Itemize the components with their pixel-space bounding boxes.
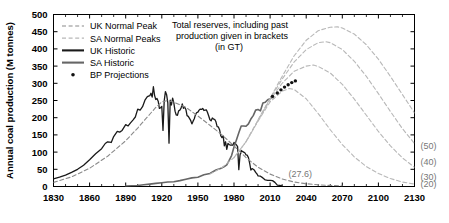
- annotation-line-1: Total reserves, including past: [172, 20, 289, 30]
- x-tick-label: 1920: [151, 192, 172, 203]
- legend-label: BP Projections: [90, 70, 149, 80]
- x-tick-label: 1830: [43, 192, 64, 203]
- y-tick-label: 150: [32, 129, 48, 140]
- x-tick-label: 2040: [296, 192, 317, 203]
- chart-canvas: 1830186018901920195019802010204020702100…: [0, 0, 449, 223]
- legend-label: UK Normal Peak: [90, 21, 158, 31]
- inline-reserve-label: (27.6): [288, 169, 312, 179]
- y-tick-label: 450: [32, 26, 48, 37]
- coal-production-chart: 1830186018901920195019802010204020702100…: [0, 0, 449, 223]
- bp-projection-dot: [271, 95, 274, 98]
- bp-projection-dot: [294, 79, 297, 82]
- series-line: [126, 97, 274, 186]
- y-tick-label: 100: [32, 147, 48, 158]
- x-tick-label: 2100: [368, 192, 389, 203]
- y-tick-label: 0: [42, 181, 47, 192]
- y-tick-label: 350: [32, 61, 48, 72]
- x-tick-label: 2130: [404, 192, 425, 203]
- right-axis-reserve-label: (40): [421, 157, 437, 167]
- legend-label: UK Historic: [90, 46, 136, 56]
- y-tick-label: 50: [37, 164, 48, 175]
- bp-projection-dot: [286, 83, 289, 86]
- y-tick-label: 400: [32, 43, 48, 54]
- y-tick-label: 300: [32, 78, 48, 89]
- y-tick-label: 200: [32, 112, 48, 123]
- x-tick-label: 1890: [115, 192, 136, 203]
- right-axis-reserve-label: (20): [421, 179, 437, 189]
- y-tick-label: 250: [32, 95, 48, 106]
- legend-marker-bp-projections: [71, 73, 75, 77]
- series-line: [54, 87, 283, 186]
- x-tick-label: 2070: [332, 192, 353, 203]
- legend-label: SA Historic: [90, 58, 135, 68]
- y-axis-title: Annual coal production (M tonnes): [4, 22, 15, 179]
- series-line: [210, 88, 415, 184]
- y-tick-label: 500: [32, 9, 48, 20]
- bp-projection-dot: [276, 91, 279, 94]
- legend-label: SA Normal Peaks: [90, 34, 161, 44]
- bp-projection-dot: [290, 81, 293, 84]
- series-line: [246, 42, 414, 144]
- bp-projection-dot: [279, 88, 282, 91]
- x-tick-label: 1950: [187, 192, 208, 203]
- series-line: [234, 65, 415, 167]
- x-tick-label: 1980: [223, 192, 244, 203]
- x-tick-label: 1860: [79, 192, 100, 203]
- annotation-line-3: (in GT): [215, 42, 243, 52]
- annotation-line-2: production given in brackets: [176, 31, 289, 41]
- bp-projection-dot: [283, 85, 286, 88]
- x-tick-label: 2010: [260, 192, 281, 203]
- right-axis-reserve-label: (50): [421, 141, 437, 151]
